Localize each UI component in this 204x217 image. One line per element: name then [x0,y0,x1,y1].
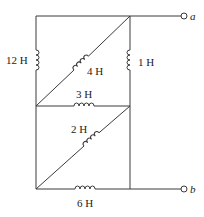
inductor-12h [36,16,39,106]
inductor-3h-label: 3 H [76,88,92,100]
inductor-12h-label: 12 H [6,54,28,66]
terminal-a-label: a [190,10,196,22]
circuit-diagram: a 12 H 1 H 4 H 3 H 2 H [0,0,204,217]
inductor-6h-label: 6 H [77,197,93,209]
inductor-1h-label: 1 H [138,56,154,68]
terminal-b [181,186,187,192]
inductor-2h [36,106,130,189]
inductor-2h-label: 2 H [71,123,87,135]
inductor-1h [127,16,130,106]
inductor-4h-label: 4 H [87,65,103,77]
terminal-b-label: b [190,183,196,195]
terminal-a [181,13,187,19]
inductor-6h [36,186,181,189]
inductor-3h [36,103,130,106]
